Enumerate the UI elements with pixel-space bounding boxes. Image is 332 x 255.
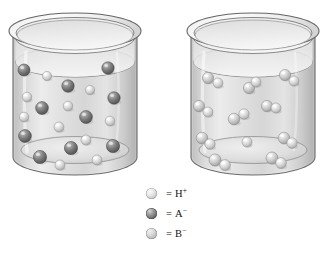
right-beaker [187, 13, 319, 175]
legend-label-b-minus: = B− [166, 228, 187, 239]
sphere-icon [146, 188, 157, 199]
figure-canvas: = H+ = A− = B− [0, 0, 332, 255]
legend-item-a-minus: = A− [146, 203, 266, 223]
left-beaker-rim-bore [17, 20, 133, 50]
legend-label-h-plus: = H+ [166, 188, 187, 199]
legend-item-h-plus: = H+ [146, 183, 266, 203]
sphere-icon [146, 208, 157, 219]
right-beaker-rim-bore [195, 20, 311, 50]
legend-item-b-minus: = B− [146, 223, 266, 243]
legend-label-a-minus: = A− [166, 208, 187, 219]
sphere-icon [146, 228, 157, 239]
legend: = H+ = A− = B− [146, 183, 266, 243]
left-beaker [9, 13, 141, 175]
